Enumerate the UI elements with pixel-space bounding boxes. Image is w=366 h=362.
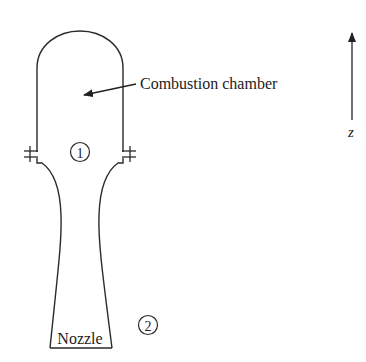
svg-text:2: 2 bbox=[145, 319, 152, 334]
rocket-engine-diagram: 1 2 Combustion chamber Nozzle z bbox=[0, 0, 366, 362]
left-flange bbox=[24, 146, 38, 162]
svg-text:1: 1 bbox=[77, 146, 84, 161]
nozzle-label: Nozzle bbox=[57, 330, 102, 347]
engine-outline bbox=[37, 31, 123, 348]
combustion-chamber-label: Combustion chamber bbox=[140, 75, 278, 92]
station-2-marker: 2 bbox=[139, 316, 158, 335]
combustion-chamber-pointer-arrow bbox=[84, 84, 136, 95]
right-flange bbox=[122, 146, 136, 162]
station-1-marker: 1 bbox=[71, 143, 90, 162]
z-axis-label: z bbox=[347, 124, 354, 140]
right-wall-lower bbox=[99, 158, 123, 348]
combustion-chamber-wall bbox=[37, 31, 123, 152]
left-wall-lower bbox=[37, 158, 61, 348]
